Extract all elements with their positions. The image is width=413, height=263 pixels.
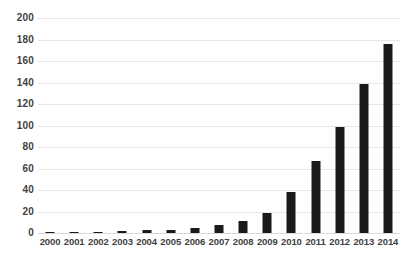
bar[interactable] [142,230,151,233]
x-axis-tick-label: 2002 [86,236,110,248]
bar[interactable] [311,161,320,233]
bar[interactable] [287,192,296,233]
bar[interactable] [190,228,199,233]
bar[interactable] [166,230,175,233]
x-axis-tick-label: 2014 [376,236,400,248]
bar[interactable] [214,225,223,233]
x-axis-tick-label: 2010 [279,236,303,248]
bar-slot [231,18,255,233]
bar[interactable] [359,84,368,233]
bar-slot [86,18,110,233]
bar-slot [38,18,62,233]
bar-slot [255,18,279,233]
bar[interactable] [46,232,55,234]
y-axis-tick-label: 60 [0,164,34,174]
x-axis-tick-label: 2006 [183,236,207,248]
bar-slot [183,18,207,233]
bar-slot [279,18,303,233]
bar-slot [159,18,183,233]
y-axis-tick-label: 100 [0,121,34,131]
y-axis-tick-label: 120 [0,99,34,109]
bar[interactable] [118,231,127,233]
x-axis-tick-label: 2005 [159,236,183,248]
axis-baseline [38,233,400,234]
bar-slot [207,18,231,233]
bar-chart: 020406080100120140160180200 200020012002… [0,0,413,263]
bar-slot [110,18,134,233]
x-axis-tick-label: 2004 [135,236,159,248]
bar[interactable] [383,44,392,233]
x-axis-tick-label: 2013 [352,236,376,248]
y-axis-tick-label: 20 [0,207,34,217]
x-axis-tick-label: 2003 [110,236,134,248]
bar-slot [62,18,86,233]
bar-slot [303,18,327,233]
y-axis-tick-label: 200 [0,13,34,23]
bar[interactable] [70,232,79,234]
x-axis-tick-label: 2008 [231,236,255,248]
y-axis-tick-label: 40 [0,185,34,195]
bar[interactable] [239,221,248,233]
y-axis: 020406080100120140160180200 [0,0,34,263]
x-axis: 2000200120022003200420052006200720082009… [38,236,400,252]
x-axis-tick-label: 2009 [255,236,279,248]
y-axis-tick-label: 140 [0,78,34,88]
bar[interactable] [94,232,103,234]
y-axis-tick-label: 160 [0,56,34,66]
bar-series [38,18,400,233]
y-axis-tick-label: 80 [0,142,34,152]
x-axis-tick-label: 2000 [38,236,62,248]
bar[interactable] [263,213,272,233]
bar[interactable] [335,127,344,233]
x-axis-tick-label: 2001 [62,236,86,248]
bar-slot [376,18,400,233]
bar-slot [352,18,376,233]
plot-area [38,18,400,233]
x-axis-tick-label: 2011 [303,236,327,248]
bar-slot [328,18,352,233]
x-axis-tick-label: 2007 [207,236,231,248]
y-axis-tick-label: 180 [0,35,34,45]
y-axis-tick-label: 0 [0,228,34,238]
bar-slot [135,18,159,233]
x-axis-tick-label: 2012 [328,236,352,248]
